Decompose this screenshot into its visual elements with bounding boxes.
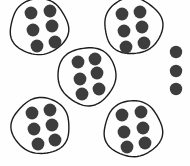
counter-dot — [76, 88, 89, 101]
counter-dot — [135, 106, 148, 119]
counter-dot — [91, 67, 104, 80]
counter-dot — [116, 109, 129, 122]
counter-dot — [44, 5, 57, 18]
ungrouped-counter-dot — [170, 46, 182, 58]
counter-dot — [136, 21, 149, 34]
counter-dot — [120, 41, 133, 54]
counter-dot — [46, 119, 59, 132]
counter-dot — [46, 20, 59, 33]
figure-canvas — [0, 0, 190, 166]
counter-dot — [118, 25, 131, 38]
counter-dot — [116, 8, 129, 21]
counter-dot — [28, 123, 41, 136]
ungrouped-counter-dot — [170, 83, 182, 95]
counter-dot — [32, 138, 45, 151]
counter-dot — [49, 36, 62, 49]
counter-dot — [139, 137, 152, 150]
counter-dot — [93, 83, 106, 96]
counter-dot — [89, 53, 102, 66]
dot-grouping-figure: Grouped counters diagram — [0, 0, 190, 166]
counter-dot — [74, 73, 87, 86]
counter-dot — [49, 134, 62, 147]
ungrouped-counter-dot — [170, 65, 182, 77]
figure-background — [0, 0, 190, 166]
counter-dot — [27, 24, 40, 37]
counter-dot — [138, 37, 151, 50]
counter-dot — [134, 6, 147, 19]
ungrouped-dots-layer — [170, 46, 182, 95]
counter-dot — [25, 7, 38, 20]
counter-dot — [31, 40, 44, 53]
counter-dot — [118, 126, 131, 139]
counter-dot — [72, 56, 85, 69]
counter-dot — [44, 104, 57, 117]
counter-dot — [121, 141, 134, 154]
counter-dot — [137, 122, 150, 135]
counter-dot — [26, 107, 39, 120]
